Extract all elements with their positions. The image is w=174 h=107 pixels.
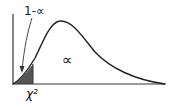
lower-tail-label: 1-∝ (24, 5, 45, 17)
upper-region-label: ∝ (62, 53, 73, 68)
arrow-shaft (22, 18, 32, 71)
density-curve (13, 21, 165, 84)
arrow-head (20, 66, 25, 73)
cutoff-label: χ² (26, 88, 38, 100)
